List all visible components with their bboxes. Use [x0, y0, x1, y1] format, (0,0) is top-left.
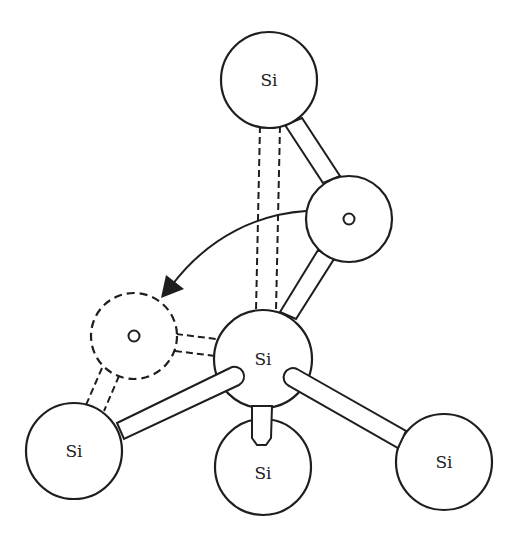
label-si-lower-right: Si [435, 452, 453, 472]
bond-si-top-to-o-right [285, 118, 340, 183]
label-si-bottom: Si [254, 463, 272, 483]
oxygen-marker-right [344, 214, 355, 225]
migration-arrow [161, 211, 306, 298]
bond-o-left-to-si-lower-left-dashed [86, 368, 119, 411]
arrowhead-icon [161, 275, 184, 298]
label-si-lower-left: Si [65, 441, 83, 461]
label-si-top: Si [260, 70, 278, 90]
bond-si-center-to-si-lower-right [284, 368, 406, 448]
bond-o-left-to-si-center-dashed [175, 334, 216, 356]
si-o-structure-diagram: Si Si Si Si Si [0, 0, 519, 538]
migration-arrow-path [172, 211, 306, 285]
bond-si-center-to-si-bottom [252, 406, 272, 445]
oxygen-marker-left [129, 331, 140, 342]
bond-o-right-to-si-center [280, 250, 334, 319]
label-si-center: Si [254, 349, 272, 369]
